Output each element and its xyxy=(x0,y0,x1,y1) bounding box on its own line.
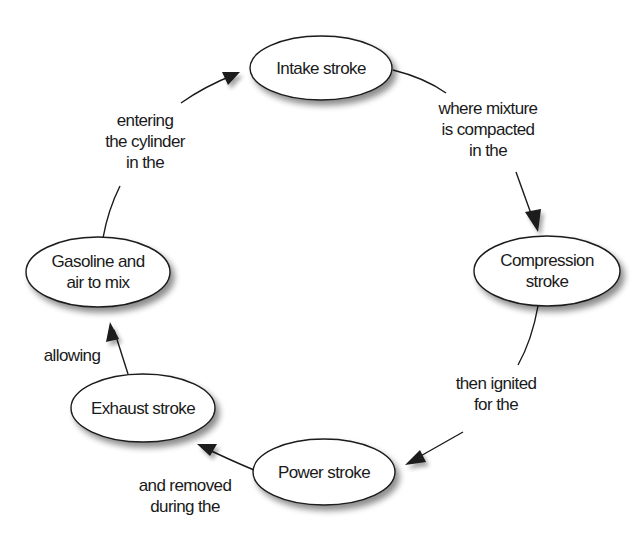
node-gasoline-label: Gasoline and air to mix xyxy=(26,237,170,307)
edge-label-line: during the xyxy=(150,496,220,517)
arrow-head-icon xyxy=(525,209,541,232)
edge-label-line: for the xyxy=(474,394,518,415)
edge-label-line: in the xyxy=(126,152,164,173)
node-label-line: Power stroke xyxy=(278,462,370,483)
node-compression-label: Compression stroke xyxy=(474,236,620,306)
edge-label-line: allowing xyxy=(44,345,101,366)
node-label-line: air to mix xyxy=(67,272,130,293)
node-label-line: Intake stroke xyxy=(276,58,366,79)
node-label-line: Exhaust stroke xyxy=(91,398,195,419)
node-label-line: Gasoline and xyxy=(52,251,145,272)
node-label-line: stroke xyxy=(526,271,569,292)
connector-compression-to-label xyxy=(518,306,538,365)
edge-label-line: then ignited xyxy=(456,373,537,394)
connector-intake-to-label xyxy=(393,70,446,93)
arrow-head-icon xyxy=(405,450,426,465)
edge-label-exhaust-gasoline: allowing xyxy=(30,345,114,366)
connector-gasoline-to-label xyxy=(103,186,120,238)
four-stroke-cycle-diagram: Intake stroke Compression stroke Power s… xyxy=(0,0,637,538)
node-label-line: Compression xyxy=(500,250,594,271)
node-exhaust-label: Exhaust stroke xyxy=(71,374,215,442)
edge-label-line: the cylinder xyxy=(105,131,185,152)
arrow-head-icon xyxy=(197,444,217,456)
arrow-head-icon xyxy=(106,322,119,342)
edge-label-intake-compression: where mixture is compacted in the xyxy=(418,98,558,161)
edge-label-line: where mixture xyxy=(439,98,538,119)
edge-label-power-exhaust: and removed during the xyxy=(125,475,245,517)
edge-label-line: is compacted xyxy=(442,119,535,140)
edge-label-line: in the xyxy=(469,140,507,161)
edge-label-gasoline-intake: entering the cylinder in the xyxy=(90,110,200,173)
edge-label-line: entering xyxy=(117,110,174,131)
edge-label-line: and removed xyxy=(139,475,232,496)
node-intake-label: Intake stroke xyxy=(250,36,392,100)
node-power-label: Power stroke xyxy=(253,439,395,505)
edge-label-compression-power: then ignited for the xyxy=(436,373,556,415)
